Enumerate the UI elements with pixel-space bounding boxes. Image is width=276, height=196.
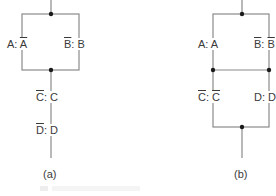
label-post: A [211, 38, 218, 50]
label-pre: D [36, 124, 44, 136]
label-post: A [20, 38, 27, 50]
label-b-top-right: B: B [253, 38, 276, 50]
label-a-left: A: A [6, 38, 28, 50]
label-a-series-1: C: C [35, 91, 59, 103]
caption-a: (a) [43, 168, 56, 180]
faded-caption-artifact [40, 186, 140, 191]
label-post: D [268, 91, 276, 103]
label-post: C [50, 91, 58, 103]
label-pre: C [198, 91, 206, 103]
label-b-top-left: A: A [197, 38, 219, 50]
label-pre: C [36, 91, 44, 103]
label-b-bottom-left: C: C [197, 91, 221, 103]
label-post: D [50, 124, 58, 136]
label-a-series-2: D: D [35, 124, 59, 136]
label-b-bottom-right: D: D [253, 91, 276, 103]
diagram-b-wires [213, 0, 269, 158]
label-pre: D [254, 91, 262, 103]
label-post: C [212, 91, 220, 103]
label-post: B [77, 38, 84, 50]
diagram-a-nodes [49, 12, 53, 72]
label-a-right: B: B [63, 38, 86, 50]
label-post: B [267, 38, 274, 50]
caption-b: (b) [234, 168, 247, 180]
